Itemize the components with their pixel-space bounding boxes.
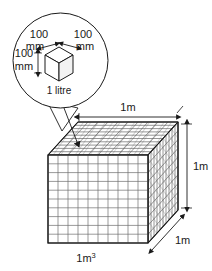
diagram-canvas: 1m 1m 1m 1m3 — [0, 0, 212, 271]
dim-top-right-value: 100 — [74, 28, 92, 40]
depth-label: 1m — [175, 234, 190, 246]
big-cube-group — [48, 122, 178, 243]
dimension-height: 1m — [181, 124, 208, 208]
dim-left-unit: mm — [15, 60, 33, 72]
cube-caption-superscript: 3 — [92, 251, 96, 260]
dim-top-left-value: 100 — [30, 28, 48, 40]
dim-top-right-unit: mm — [76, 40, 94, 52]
callout-circle-group: 100 mm 100 mm 100 mm 1 litre — [13, 13, 108, 108]
litre-cube-label: 1 litre — [47, 85, 72, 96]
width-label: 1m — [120, 101, 135, 113]
volume-diagram: 1m 1m 1m 1m3 — [0, 0, 212, 271]
cube-caption-text: 1m — [76, 252, 91, 264]
litre-cube — [45, 47, 73, 81]
dimension-width: 1m — [79, 101, 183, 121]
cube-caption: 1m3 — [76, 251, 95, 264]
dim-left-value: 100 — [15, 47, 33, 59]
height-label: 1m — [193, 160, 208, 172]
